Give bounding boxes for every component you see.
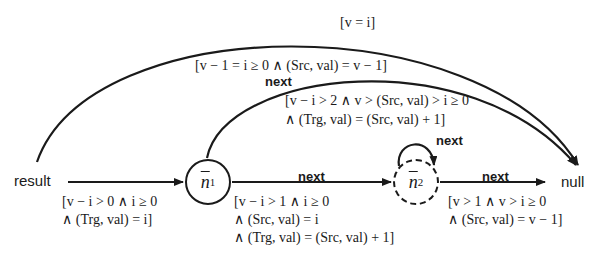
node-n1-label: n [201,172,210,193]
edge-label-n2-null-line2: ∧ (Src, val) = v − 1] [448,211,562,228]
node-null: null [561,173,584,190]
edge-name-n1-n2: next [298,168,325,185]
edge-label-n2-null-line1: [v > 1 ∧ v > i ≥ 0 [448,193,546,210]
edge-label-result-n1-line2: ∧ (Trg, val) = i] [62,211,152,228]
node-n2-label: n [409,172,418,193]
node-n2: n2 [393,159,439,205]
edge-name-n1-null: next [265,73,292,90]
edge-label-n1-n2-line3: ∧ (Trg, val) = (Src, val) + 1] [234,229,394,246]
node-n2-subscript: 2 [418,176,424,188]
edge-label-result-n1-line1: [v − i > 0 ∧ i ≥ 0 [62,193,157,210]
node-n1: n1 [185,159,231,205]
edge-label-n1-n2-line1: [v − i > 1 ∧ i ≥ 0 [234,193,329,210]
edge-label-n1-n2-line2: ∧ (Src, val) = i [234,211,319,228]
edge-label-result-null: [v = i] [340,14,375,31]
edge-label-n1-null: [v − 1 = i ≥ 0 ∧ (Src, val) = v − 1] [195,57,387,74]
node-result: result [14,172,51,189]
edge-label-n2-self-line1: [v − i > 2 ∧ v > (Src, val) > i ≥ 0 [285,92,469,109]
node-n1-subscript: 1 [210,176,216,188]
edge-label-n2-self-line2: ∧ (Trg, val) = (Src, val) + 1] [285,111,445,128]
edge-name-n2-self: next [436,132,463,149]
edge-name-n2-null: next [482,168,509,185]
